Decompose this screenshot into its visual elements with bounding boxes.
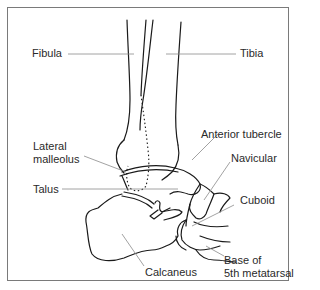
label-talus: Talus: [33, 183, 59, 196]
label-fibula: Fibula: [32, 47, 62, 60]
label-tibia: Tibia: [240, 47, 263, 60]
label-calcaneus: Calcaneus: [145, 266, 197, 279]
label-cuboid: Cuboid: [240, 194, 275, 207]
label-anterior-tubercle: Anterior tubercle: [201, 128, 282, 141]
leader-cuboid: [192, 205, 234, 226]
label-lateral-malleolus-line2: malleolus: [33, 153, 79, 166]
leader-calcaneus: [122, 234, 144, 266]
calcaneus-shape: [86, 194, 186, 261]
label-5th-metatarsal: 5th metatarsal: [224, 267, 294, 280]
tibia-shape: [176, 22, 181, 145]
label-lateral-malleolus-line1: Lateral: [33, 140, 67, 153]
label-navicular: Navicular: [231, 152, 277, 165]
leader-lateral-malleolus: [84, 156, 126, 172]
label-base-of: Base of: [224, 254, 261, 267]
navicular-shape: [189, 184, 214, 219]
fibula-shape: [124, 20, 130, 140]
